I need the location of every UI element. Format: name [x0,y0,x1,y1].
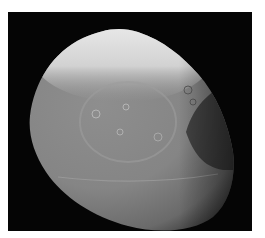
terminator-shading [8,12,252,231]
moon-illustration [8,12,252,231]
moon-photo [8,12,252,231]
